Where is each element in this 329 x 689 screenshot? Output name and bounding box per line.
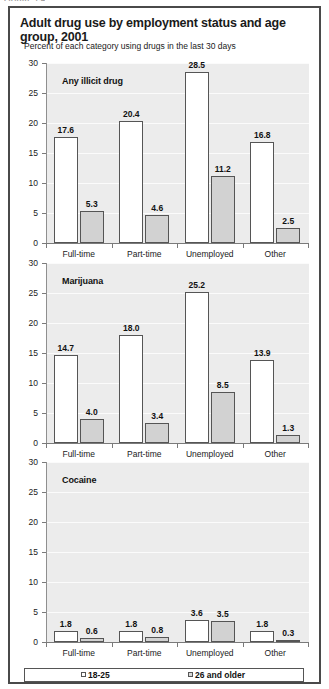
- bar-value-label: 0.6: [74, 627, 110, 636]
- x-axis-tick-mark: [112, 643, 113, 647]
- legend-label: 18-25: [88, 670, 110, 680]
- y-axis-tick-mark: [42, 213, 46, 214]
- y-axis-tick-mark: [42, 522, 46, 523]
- y-axis-tick-label: 5: [0, 209, 38, 217]
- y-axis-tick-mark: [42, 263, 46, 264]
- bar: [211, 392, 235, 443]
- panel-title: Cocaine: [62, 475, 96, 485]
- bar-value-label: 1.3: [270, 424, 306, 433]
- bar: [250, 142, 274, 243]
- bar: [80, 211, 104, 243]
- legend-item-18-25: 18-25: [81, 670, 110, 681]
- bar: [185, 72, 209, 243]
- y-axis-tick-label: 30: [0, 458, 38, 466]
- x-axis-tick-mark: [308, 643, 309, 647]
- bar: [145, 637, 169, 642]
- gridline: [47, 323, 309, 324]
- x-axis-tick-mark: [243, 244, 244, 248]
- bar: [54, 355, 78, 443]
- gridline: [47, 263, 309, 264]
- y-axis-tick-label: 30: [0, 59, 38, 67]
- bar-value-label: 8.5: [205, 381, 241, 390]
- bar-value-label: 13.9: [244, 349, 280, 358]
- bar: [119, 121, 143, 243]
- white-square-icon: [81, 672, 86, 677]
- x-axis-tick-mark: [308, 244, 309, 248]
- bar: [119, 335, 143, 443]
- bar-value-label: 0.3: [270, 629, 306, 638]
- x-axis-tick-mark: [46, 444, 47, 448]
- y-axis-tick-label: 0: [0, 638, 38, 646]
- gridline: [47, 93, 309, 94]
- x-axis-tick-mark: [177, 444, 178, 448]
- bar-value-label: 28.5: [179, 61, 215, 70]
- bar-value-label: 16.8: [244, 131, 280, 140]
- bar-value-label: 20.4: [113, 110, 149, 119]
- y-axis-tick-label: 15: [0, 349, 38, 357]
- x-axis-category-label: Other: [235, 449, 315, 459]
- gray-square-icon: [188, 672, 193, 677]
- bar: [185, 620, 209, 642]
- y-axis-tick-mark: [42, 153, 46, 154]
- gridline: [47, 293, 309, 294]
- bar: [145, 423, 169, 443]
- y-axis-tick-label: 30: [0, 259, 38, 267]
- x-axis-tick-mark: [46, 643, 47, 647]
- bar-value-label: 1.8: [244, 620, 280, 629]
- x-axis-tick-mark: [46, 244, 47, 248]
- bar-value-label: 25.2: [179, 281, 215, 290]
- y-axis-tick-mark: [42, 293, 46, 294]
- y-axis-tick-label: 5: [0, 409, 38, 417]
- y-axis-tick-mark: [42, 323, 46, 324]
- y-axis-tick-mark: [42, 353, 46, 354]
- y-axis-tick-label: 0: [0, 239, 38, 247]
- x-axis-tick-mark: [243, 643, 244, 647]
- figure-number-header: FIGURE 1.4: [4, 0, 45, 1]
- bar: [185, 292, 209, 443]
- panel-title: Any illicit drug: [62, 76, 123, 86]
- y-axis-tick-label: 10: [0, 578, 38, 586]
- y-axis-tick-mark: [42, 552, 46, 553]
- panel-title: Marijuana: [62, 276, 103, 286]
- y-axis-tick-mark: [42, 93, 46, 94]
- bar-value-label: 3.5: [205, 610, 241, 619]
- bar-value-label: 14.7: [48, 344, 84, 353]
- bar-value-label: 2.5: [270, 217, 306, 226]
- y-axis-tick-label: 10: [0, 379, 38, 387]
- x-axis-tick-mark: [112, 444, 113, 448]
- gridline: [47, 462, 309, 463]
- bar-value-label: 3.4: [139, 412, 175, 421]
- bar: [211, 621, 235, 642]
- y-axis-tick-label: 15: [0, 149, 38, 157]
- bar-value-label: 11.2: [205, 165, 241, 174]
- y-axis-tick-label: 25: [0, 89, 38, 97]
- gridline: [47, 123, 309, 124]
- y-axis-tick-label: 5: [0, 608, 38, 616]
- x-axis-tick-mark: [177, 643, 178, 647]
- y-axis-tick-label: 25: [0, 289, 38, 297]
- chart-subtitle: Percent of each category using drugs in …: [24, 41, 314, 52]
- y-axis-tick-label: 20: [0, 119, 38, 127]
- gridline: [47, 522, 309, 523]
- chart-legend: 18-25 26 and older: [24, 668, 304, 682]
- bar: [211, 176, 235, 243]
- gridline: [47, 582, 309, 583]
- y-axis-tick-mark: [42, 492, 46, 493]
- y-axis-tick-label: 15: [0, 548, 38, 556]
- y-axis-tick-mark: [42, 413, 46, 414]
- y-axis-tick-mark: [42, 612, 46, 613]
- y-axis-tick-mark: [42, 183, 46, 184]
- legend-item-26-and-older: 26 and older: [188, 670, 245, 681]
- bar: [145, 215, 169, 243]
- gridline: [47, 552, 309, 553]
- gridline: [47, 492, 309, 493]
- legend-label: 26 and older: [195, 670, 245, 680]
- y-axis-tick-mark: [42, 63, 46, 64]
- y-axis-tick-label: 0: [0, 439, 38, 447]
- bar: [276, 640, 300, 642]
- x-axis-tick-mark: [308, 444, 309, 448]
- bar-value-label: 5.3: [74, 200, 110, 209]
- x-axis-tick-mark: [243, 444, 244, 448]
- y-axis-tick-mark: [42, 462, 46, 463]
- bar: [54, 137, 78, 243]
